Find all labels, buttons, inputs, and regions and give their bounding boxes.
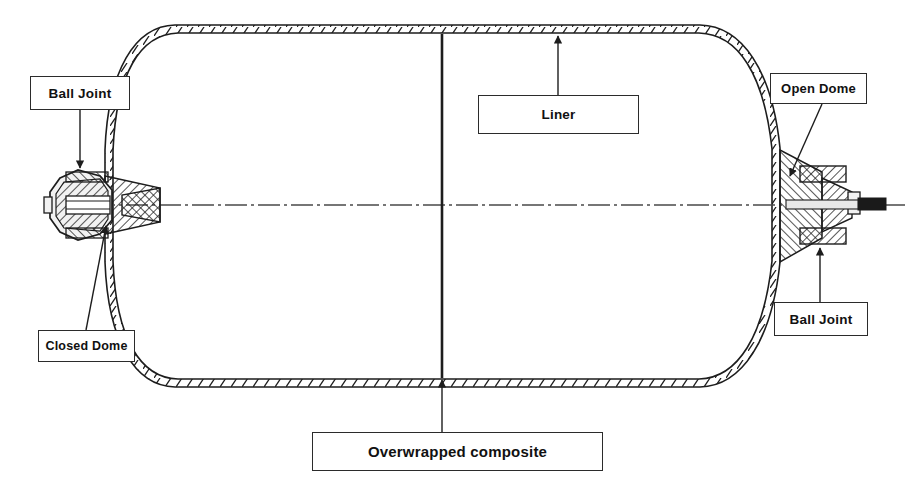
left-ball-stub <box>44 197 52 213</box>
callout-closed-dome: Closed Dome <box>38 330 135 362</box>
right-upper-flange <box>800 166 846 182</box>
callout-ball-joint-right-text: Ball Joint <box>790 312 853 327</box>
callout-ball-joint-right: Ball Joint <box>774 302 868 336</box>
callout-closed-dome-text: Closed Dome <box>45 339 127 353</box>
callout-open-dome-text: Open Dome <box>781 81 856 96</box>
callout-overwrapped-composite: Overwrapped composite <box>312 432 603 471</box>
callout-liner-text: Liner <box>541 107 575 122</box>
callout-ball-joint-left-text: Ball Joint <box>49 86 112 101</box>
callout-overwrapped-composite-text: Overwrapped composite <box>368 443 547 460</box>
right-lower-flange <box>800 228 846 244</box>
left-ball-joint-assembly <box>44 170 160 240</box>
callout-ball-joint-left: Ball Joint <box>30 76 130 110</box>
left-ball-bore <box>66 196 110 214</box>
right-outlet-shaft <box>858 198 886 210</box>
left-upper-collar <box>66 172 108 182</box>
diagram-canvas: Ball Joint Liner Open Dome Closed Dome B… <box>0 0 910 491</box>
callout-liner: Liner <box>478 95 639 134</box>
right-boss-bore <box>786 200 858 209</box>
callout-open-dome: Open Dome <box>770 73 867 104</box>
left-lower-collar <box>66 228 108 238</box>
right-ball-joint-assembly <box>780 150 886 262</box>
leader-closed-dome <box>86 226 106 330</box>
